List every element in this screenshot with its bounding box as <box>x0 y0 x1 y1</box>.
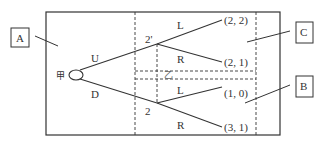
game-tree-diagram: A C B 甲 2' 2 乙 U D L R L R (2, 2) (2, 1)… <box>0 0 323 146</box>
edge-label-upper-l: L <box>177 19 184 31</box>
payoff-4: (3, 1) <box>224 121 248 134</box>
payoff-1: (2, 2) <box>224 14 248 27</box>
payoff-3: (1, 0) <box>224 87 248 100</box>
edge-label-d: D <box>91 88 99 100</box>
lower-node-label: 2 <box>145 105 151 117</box>
edge-label-upper-r: R <box>177 53 185 65</box>
callout-label-a: A <box>16 32 24 44</box>
edge-label-lower-l: L <box>177 84 184 96</box>
callout-label-c: C <box>300 26 307 38</box>
upper-node-label: 2' <box>145 33 153 45</box>
callout-leader-b <box>245 85 290 103</box>
info-set-label: 乙 <box>164 70 173 80</box>
callout-leader-c <box>247 31 290 42</box>
subgame-boundaries <box>135 12 256 135</box>
edge-label-lower-r: R <box>177 119 185 131</box>
callout-label-b: B <box>300 80 307 92</box>
payoff-2: (2, 1) <box>224 56 248 69</box>
root-node <box>69 70 83 80</box>
edge-label-u: U <box>91 52 99 64</box>
root-node-label: 甲 <box>56 71 65 81</box>
